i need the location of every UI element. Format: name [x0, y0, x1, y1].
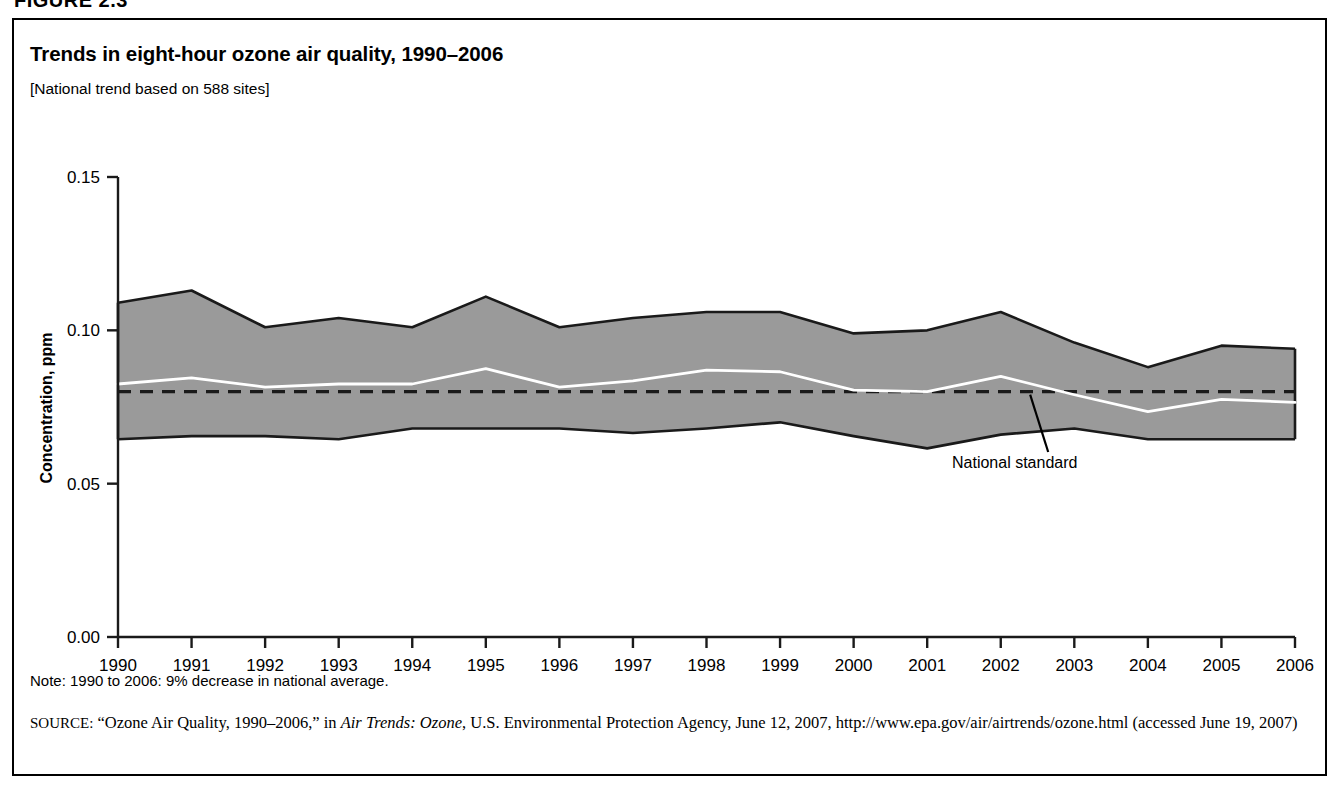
y-tick-label: 0.15 [67, 168, 100, 187]
y-axis-ticks: 0.000.050.100.15 [67, 168, 118, 647]
x-tick-label: 2006 [1276, 656, 1314, 675]
y-axis-title: Concentration, ppm [38, 332, 55, 483]
annotation-label-national-standard: National standard [952, 454, 1077, 471]
x-tick-label: 2005 [1203, 656, 1241, 675]
source-italic-title: Air Trends: Ozone [341, 713, 462, 732]
y-axis: 0.000.050.100.15 Concentration, ppm [38, 168, 118, 647]
x-tick-label: 2003 [1055, 656, 1093, 675]
source-prefix: SOURCE: [30, 715, 93, 731]
chart-note: Note: 1990 to 2006: 9% decrease in natio… [30, 672, 389, 689]
x-axis-ticks: 1990199119921993199419951996199719981999… [99, 637, 1314, 675]
source-text-part1: “Ozone Air Quality, 1990–2006,” in [93, 713, 340, 732]
y-tick-label: 0.00 [67, 628, 100, 647]
x-tick-label: 1994 [393, 656, 431, 675]
y-tick-label: 0.10 [67, 321, 100, 340]
x-tick-label: 2001 [908, 656, 946, 675]
x-tick-label: 1997 [614, 656, 652, 675]
y-tick-label: 0.05 [67, 475, 100, 494]
source-text-part2: , U.S. Environmental Protection Agency, … [462, 713, 1298, 732]
x-axis: 1990199119921993199419951996199719981999… [99, 637, 1314, 675]
chart-source: SOURCE: “Ozone Air Quality, 1990–2006,” … [30, 711, 1310, 735]
x-tick-label: 1999 [761, 656, 799, 675]
plot-area [118, 290, 1295, 448]
x-tick-label: 1995 [467, 656, 505, 675]
x-tick-label: 2004 [1129, 656, 1167, 675]
x-tick-label: 2002 [982, 656, 1020, 675]
x-tick-label: 2000 [835, 656, 873, 675]
x-tick-label: 1998 [688, 656, 726, 675]
x-tick-label: 1996 [540, 656, 578, 675]
